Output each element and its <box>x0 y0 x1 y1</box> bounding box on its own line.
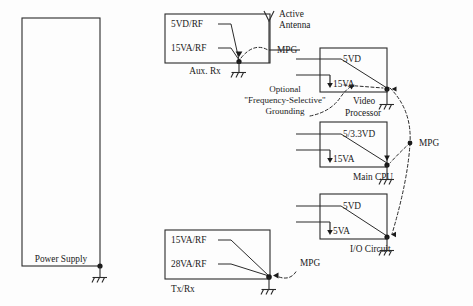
io-circuit-rail-label-2: 5VA <box>333 226 350 236</box>
aux-rx-rail-label-1: 5VD/RF <box>171 19 203 29</box>
tx-rx-rail-label-2: 28VA/RF <box>171 259 206 269</box>
antenna-label-line2: Antenna <box>279 20 311 30</box>
mpg-bus-right: MPG <box>390 88 439 234</box>
mpg-hub-node <box>408 141 413 146</box>
block-video-processor: 5VD 15VA Video Processor <box>296 48 397 118</box>
block-io-circuit: 5VD 5VA I/O Circuit <box>296 194 396 256</box>
power-supply-label: Power Supply <box>35 254 88 264</box>
main-cpu-rail-2-gnd-arrow <box>327 158 333 163</box>
note-line-2: "Frequency-Selective" <box>244 95 326 105</box>
aux-rx-label: Aux. Rx <box>189 66 221 76</box>
mpg-dashed-video-to-hub <box>390 88 410 143</box>
block-main-cpu: 5/3.3VD 15VA Main CPU <box>296 122 394 185</box>
power-supply-ground-symbol <box>92 266 107 283</box>
active-antenna: Active Antenna MPG <box>264 9 311 63</box>
mpg-label-right: MPG <box>419 138 439 148</box>
antenna-icon <box>264 11 274 21</box>
block-power-supply: Power Supply <box>22 18 107 283</box>
block-aux-rx: 5VD/RF 15VA/RF Aux. Rx <box>165 14 270 78</box>
main-cpu-rail-label-2: 15VA <box>333 154 355 164</box>
main-cpu-rail-label-1: 5/3.3VD <box>343 129 376 139</box>
video-processor-rail-label-2: 15VA <box>333 79 355 89</box>
note-line-3: Grounding <box>266 106 305 116</box>
main-cpu-ground-arrow <box>384 156 390 162</box>
mpg-dashed-curve-aux-rx <box>241 47 268 58</box>
antenna-label-line1: Active <box>279 9 304 19</box>
tx-rx-label: Tx/Rx <box>171 284 195 294</box>
io-circuit-mpg-arrow <box>391 232 396 237</box>
mpg-dashed-hub-to-io <box>392 143 410 234</box>
mpg-dashed-hub-to-cpu <box>390 143 410 163</box>
mpg-label-antenna: MPG <box>277 45 297 55</box>
mpg-dashed-tx-rx <box>279 270 297 278</box>
schematic-canvas: Power Supply 5VD/RF 15VA/RF Aux. Rx <box>0 0 473 306</box>
power-supply-box <box>22 18 100 266</box>
video-processor-rail-2-gnd-arrow <box>327 83 333 88</box>
mpg-dashed-link-aux-rx <box>241 47 268 58</box>
aux-rx-ground-symbol <box>231 62 246 78</box>
video-processor-label-line2: Processor <box>345 108 382 118</box>
tx-rx-rail-label-1: 15VA/RF <box>171 235 206 245</box>
io-circuit-label: I/O Circuit <box>350 244 391 254</box>
mpg-label-tx-rx: MPG <box>300 258 320 268</box>
video-processor-label-line1: Video <box>353 96 376 106</box>
aux-rx-rail-label-2: 15VA/RF <box>171 43 206 53</box>
block-tx-rx: 15VA/RF 28VA/RF Tx/Rx MPG <box>165 230 320 295</box>
tx-rx-rail-wire-1 <box>231 240 269 276</box>
note-line-1: Optional <box>269 84 301 94</box>
tx-rx-mpg-arrow <box>273 273 279 279</box>
video-processor-mpg-arrow <box>392 86 397 91</box>
tx-rx-ground-symbol <box>261 277 276 295</box>
grounding-diagram: Power Supply 5VD/RF 15VA/RF Aux. Rx <box>0 0 473 306</box>
io-circuit-rail-2-gnd-arrow <box>327 230 333 235</box>
